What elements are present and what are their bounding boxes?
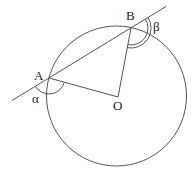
point-label-o: O (113, 98, 122, 113)
segment-ao (49, 78, 118, 97)
geometry-diagram: A B O α β (0, 0, 194, 174)
circle (47, 26, 187, 166)
point-label-a: A (34, 68, 44, 83)
angle-label-beta: β (153, 19, 160, 34)
line-ab-extended (12, 7, 166, 101)
point-label-b: B (126, 8, 135, 23)
segment-bo (118, 28, 131, 97)
angle-label-alpha: α (32, 91, 39, 106)
